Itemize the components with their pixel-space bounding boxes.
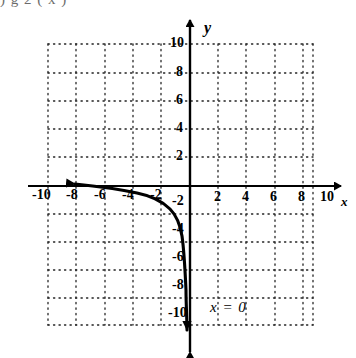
x-tick-10: 10: [320, 190, 334, 204]
y-tick-10: 10: [170, 36, 184, 50]
x-tick-2: 2: [214, 190, 221, 204]
asymptote-label: x = 0: [210, 300, 247, 315]
y-tick-neg8: -8: [172, 278, 184, 292]
y-tick-4: 4: [176, 121, 183, 135]
y-tick-6: 6: [176, 93, 183, 107]
x-axis-label: x: [341, 195, 348, 208]
y-tick-8: 8: [176, 65, 183, 79]
y-tick-neg2: -2: [172, 194, 184, 208]
x-tick-6: 6: [270, 190, 277, 204]
x-tick-neg2: -2: [150, 188, 162, 202]
x-tick-neg8: -8: [66, 188, 78, 202]
x-tick-neg6: -6: [94, 188, 106, 202]
figure-canvas: ) g 2 ( x ): [0, 0, 356, 358]
x-tick-8: 8: [298, 190, 305, 204]
y-tick-neg10: -10: [168, 306, 187, 320]
y-tick-neg4: -4: [172, 222, 184, 236]
y-axis-label: y: [204, 20, 211, 36]
x-tick-4: 4: [242, 190, 249, 204]
y-tick-2: 2: [176, 149, 183, 163]
x-tick-neg4: -4: [122, 188, 134, 202]
y-tick-neg6: -6: [172, 250, 184, 264]
x-tick-neg10: -10: [32, 188, 51, 202]
